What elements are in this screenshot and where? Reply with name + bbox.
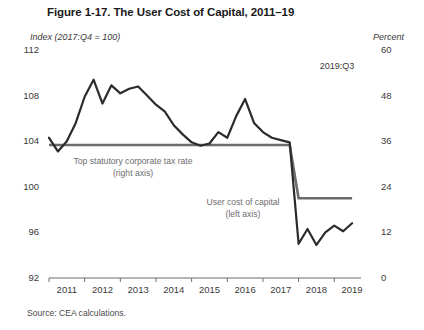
left-axis-title: Index (2017:Q4 = 100) [30,32,120,42]
annotation-user-cost: User cost of capital (left axis) [178,196,308,220]
x-tick-2016: 2016 [225,284,265,295]
x-tick-2017: 2017 [261,284,301,295]
left-tick-112: 112 [15,44,39,55]
page-title: Figure 1-17. The User Cost of Capital, 2… [47,6,294,18]
left-tick-108: 108 [15,90,39,101]
annotation-user-cost-line1: User cost of capital [206,197,279,207]
left-tick-96: 96 [15,226,39,237]
right-tick-0: 0 [381,272,405,283]
right-tick-60: 60 [381,44,405,55]
left-tick-100: 100 [15,181,39,192]
x-tick-2015: 2015 [189,284,229,295]
x-tick-2011: 2011 [47,284,87,295]
x-tick-2018: 2018 [296,284,336,295]
right-tick-24: 24 [381,181,405,192]
x-tickmarks [49,278,334,282]
figure-container: Figure 1-17. The User Cost of Capital, 2… [0,0,424,330]
right-axis-title: Percent [373,32,404,42]
annotation-last-date: 2019:Q3 [307,60,367,72]
right-tick-12: 12 [381,226,405,237]
annotation-tax-rate-line1: Top statutory corporate tax rate [74,156,193,166]
right-tick-48: 48 [381,90,405,101]
source-note: Source: CEA calculations. [27,308,126,318]
axis-lines [49,278,361,282]
x-tick-2012: 2012 [82,284,122,295]
x-tick-2014: 2014 [154,284,194,295]
x-tick-2013: 2013 [118,284,158,295]
x-tick-2019: 2019 [332,284,372,295]
annotation-tax-rate-line2: (right axis) [113,168,153,178]
annotation-tax-rate: Top statutory corporate tax rate (right … [53,155,213,179]
annotation-user-cost-line2: (left axis) [226,209,261,219]
left-tick-104: 104 [15,135,39,146]
left-tick-92: 92 [15,272,39,283]
right-tick-36: 36 [381,135,405,146]
